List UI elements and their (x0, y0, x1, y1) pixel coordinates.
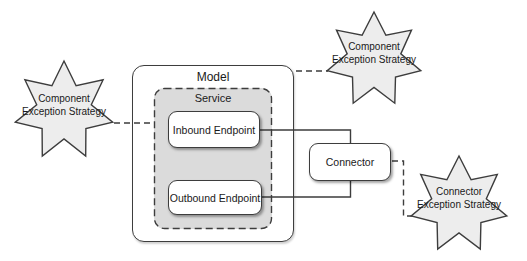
outbound-endpoint-box: Outbound Endpoint (168, 180, 262, 215)
diagram-wires-layer (0, 0, 527, 261)
connector-exception-strategy-label: Connector Exception Strategy (417, 186, 501, 211)
component-exception-strategy-label-top-right: Component Exception Strategy (332, 41, 416, 66)
inbound-endpoint-box: Inbound Endpoint (168, 111, 260, 148)
connector-box: Connector (309, 143, 391, 181)
connector-exception-dashed-link (392, 161, 412, 216)
architecture-diagram: Model Service Inbound Endpoint Outbound … (0, 0, 527, 261)
inbound-to-connector-line (260, 130, 351, 144)
connector-label: Connector (326, 156, 374, 168)
component-exception-strategy-label-left: Component Exception Strategy (22, 93, 106, 118)
inbound-endpoint-label: Inbound Endpoint (173, 124, 255, 136)
outbound-endpoint-label: Outbound Endpoint (170, 192, 261, 204)
outbound-to-connector-line (262, 180, 351, 197)
